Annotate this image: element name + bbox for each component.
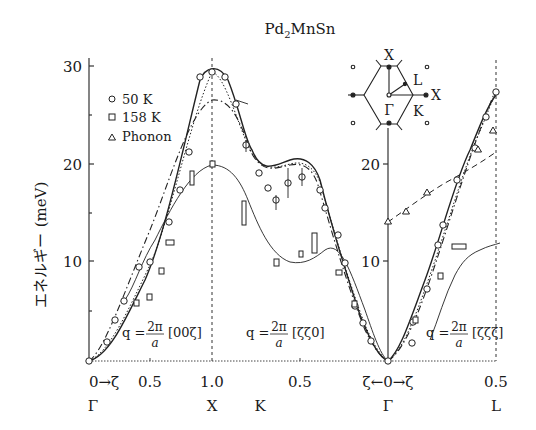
svg-text:a: a xyxy=(455,336,462,350)
markers-phonon xyxy=(385,127,497,224)
annotation-00z: q = 2π a [00ζ] xyxy=(122,320,202,350)
label-x: X xyxy=(207,397,218,415)
bz-label-gamma: Γ xyxy=(384,102,394,118)
xtick-center: ζ←0→ζ xyxy=(363,373,414,391)
error-bars xyxy=(236,100,302,210)
bz-label-x-top: X xyxy=(384,47,394,63)
y-axis-label: エネルギー(meV) xyxy=(32,182,50,309)
legend-158k: 158 K xyxy=(122,110,161,125)
legend-50k: 50 K xyxy=(122,92,153,107)
xtick-1.0: 1.0 xyxy=(200,373,224,391)
bz-label-l: L xyxy=(413,72,422,88)
bz-label-k: K xyxy=(413,103,424,119)
xtick-0.5-a: 0.5 xyxy=(138,373,162,391)
ytick-center-20: 20 xyxy=(361,156,380,174)
xtick-0-zeta: 0→ζ xyxy=(89,373,119,391)
svg-text:[ζζ0]: [ζζ0] xyxy=(292,325,325,340)
svg-text:エネルギー(meV): エネルギー(meV) xyxy=(32,182,50,309)
annotation-zz0: q = 2π a [ζζ0] xyxy=(246,320,325,350)
legend: 50 K 158 K Phonon xyxy=(109,92,173,144)
xtick-0.5-b: 0.5 xyxy=(288,373,312,391)
svg-text:2π: 2π xyxy=(451,320,467,334)
xtick-0.5-c: 0.5 xyxy=(484,373,508,391)
chart-title: Pd2MnSn xyxy=(264,20,335,40)
markers-158k xyxy=(134,161,466,323)
svg-text:2π: 2π xyxy=(147,320,163,334)
y-axis-left xyxy=(89,58,94,361)
label-l: L xyxy=(491,397,501,415)
svg-text:a: a xyxy=(275,336,282,350)
label-k: K xyxy=(254,397,266,415)
label-gamma-left: Γ xyxy=(88,397,98,415)
svg-text:q =: q = xyxy=(246,325,269,340)
brillouin-zone-inset xyxy=(348,60,429,130)
svg-text:[ζζζ]: [ζζζ] xyxy=(472,325,503,340)
annotation-zzz: q = 2π a [ζζζ] xyxy=(426,320,503,350)
ytick-center-10: 10 xyxy=(361,253,380,271)
label-gamma-center: Γ xyxy=(383,397,393,415)
ytick-10: 10 xyxy=(63,253,82,271)
svg-text:a: a xyxy=(151,336,158,350)
ytick-20: 20 xyxy=(63,156,82,174)
svg-text:2π: 2π xyxy=(271,320,287,334)
dispersion-chart: Pd2MnSn エネルギー(meV) 30 20 10 20 10 0→ζ 0.… xyxy=(0,0,536,430)
ytick-30: 30 xyxy=(63,58,82,76)
legend-phonon: Phonon xyxy=(122,129,172,144)
y-axis-center xyxy=(383,128,388,361)
svg-text:q =: q = xyxy=(122,325,145,340)
svg-text:q =: q = xyxy=(426,325,449,340)
bz-label-x-right: X xyxy=(431,87,441,103)
svg-text:[00ζ]: [00ζ] xyxy=(168,325,202,340)
